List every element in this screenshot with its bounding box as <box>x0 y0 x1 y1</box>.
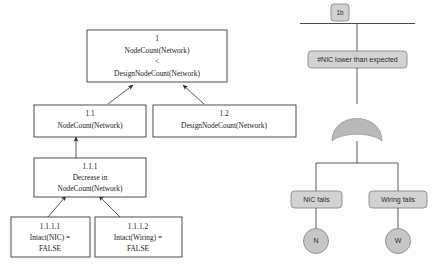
goal-node-1-1-1-line2: NodeCount(Network) <box>58 184 123 193</box>
goal-node-1-1-1-2[interactable]: 1.1.1.2 Intact(Wiring) = FALSE <box>95 217 182 257</box>
fault-tree: 1b #NIC lower than expected NIC fails <box>290 0 433 265</box>
figure-canvas: 1 NodeCount(Network) < DesignNodeCount(N… <box>0 0 433 265</box>
top-event[interactable]: #NIC lower than expected <box>308 51 407 68</box>
transfer-in-symbol[interactable]: 1b <box>331 4 349 21</box>
goal-node-1-2-line1: DesignNodeCount(Network) <box>181 121 267 130</box>
basic-event-n[interactable]: N <box>304 229 329 254</box>
basic-event-w[interactable]: W <box>386 229 411 254</box>
goal-node-1-1-1-line1: Decrease in <box>73 173 108 182</box>
goal-node-1-1-1-2-line2: FALSE <box>127 244 150 253</box>
goal-node-1-1-1-1-id: 1.1.1.1 <box>40 222 61 231</box>
goal-node-1-1[interactable]: 1.1 NodeCount(Network) <box>34 105 146 137</box>
top-event-label: #NIC lower than expected <box>317 56 398 64</box>
edge-1-1-1-1-to-1-1-1 <box>48 196 66 217</box>
goal-node-1-line3: DesignNodeCount(Network) <box>114 69 200 78</box>
basic-event-w-label: W <box>395 237 402 244</box>
or-gate[interactable] <box>332 119 382 142</box>
goal-decomposition-tree: 1 NodeCount(Network) < DesignNodeCount(N… <box>0 0 300 265</box>
fault-event-nic-fails-label: NIC fails <box>303 196 330 203</box>
goal-node-1-1-1-2-line1: Intact(Wiring) = <box>114 233 162 242</box>
transfer-in-label: 1b <box>336 9 344 16</box>
goal-node-1-line1: NodeCount(Network) <box>125 46 190 55</box>
goal-node-1-1-1-1-line1: Intact(NIC) = <box>30 233 71 242</box>
fault-event-nic-fails[interactable]: NIC fails <box>291 191 342 208</box>
goal-node-1-1-1[interactable]: 1.1.1 Decrease in NodeCount(Network) <box>34 158 146 197</box>
edge-1-1-to-1 <box>108 85 133 104</box>
goal-node-1-1-id: 1.1 <box>85 109 95 118</box>
goal-node-1-1-1-1-line2: FALSE <box>39 244 62 253</box>
goal-node-1-1-1-1[interactable]: 1.1.1.1 Intact(NIC) = FALSE <box>11 217 90 257</box>
goal-node-1-1-1-2-id: 1.1.1.2 <box>128 222 149 231</box>
edge-1-2-to-1 <box>183 85 204 104</box>
fault-event-wiring-fails-label: Wiring fails <box>381 196 416 204</box>
goal-node-1[interactable]: 1 NodeCount(Network) < DesignNodeCount(N… <box>87 30 227 82</box>
goal-node-1-line2: < <box>155 57 159 66</box>
goal-node-1-2-id: 1.2 <box>219 109 229 118</box>
goal-node-1-id: 1 <box>155 34 159 43</box>
fault-event-wiring-fails[interactable]: Wiring fails <box>369 191 427 208</box>
basic-event-n-label: N <box>313 237 318 244</box>
goal-node-1-1-1-id: 1.1.1 <box>83 162 98 171</box>
goal-node-1-1-line1: NodeCount(Network) <box>58 121 123 130</box>
edge-1-1-1-2-to-1-1-1 <box>99 196 120 217</box>
goal-node-1-2[interactable]: 1.2 DesignNodeCount(Network) <box>153 105 296 137</box>
or-gate-shape <box>332 119 382 142</box>
